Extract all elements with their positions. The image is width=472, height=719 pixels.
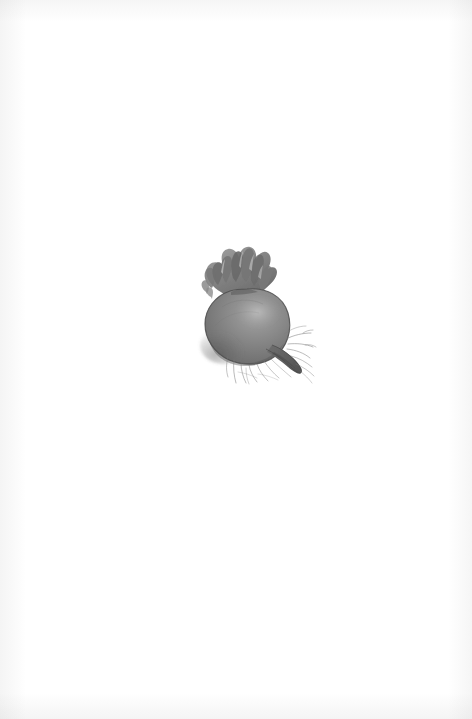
leaf-fringe-left-2 (206, 287, 213, 299)
root-hair-r1 (286, 333, 311, 339)
root-hair-b3 (249, 365, 257, 382)
root-hair-b8 (246, 368, 249, 384)
beet-illustration: Beet A grayscale watercolor painting of … (0, 0, 472, 719)
root-hair-r1b (303, 330, 313, 333)
illustration-page: Beet A grayscale watercolor painting of … (0, 0, 472, 719)
root-hair-r2 (288, 344, 313, 347)
root-hair-x1 (238, 372, 257, 378)
root-hair-b4 (257, 364, 268, 381)
